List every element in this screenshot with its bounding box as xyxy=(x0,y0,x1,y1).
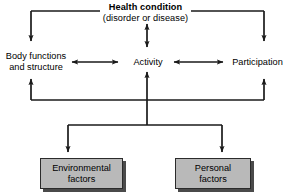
health-condition-subtitle: (disorder or disease) xyxy=(0,13,291,24)
participation-label: Participation xyxy=(224,57,291,68)
body-functions-label: Body functions and structure xyxy=(0,51,72,72)
health-condition-title: Health condition xyxy=(0,2,291,13)
body-functions-line-1: Body functions xyxy=(6,51,66,61)
body-functions-line-2: and structure xyxy=(9,62,63,72)
icf-model-diagram: Health condition (disorder or disease) B… xyxy=(0,0,291,193)
environmental-factors-line-2: factors xyxy=(68,174,96,184)
environmental-factors-box: Environmental factors xyxy=(40,158,123,189)
personal-factors-box: Personal factors xyxy=(175,158,251,189)
activity-label: Activity xyxy=(119,57,177,68)
environmental-factors-line-1: Environmental xyxy=(52,163,111,173)
health-condition-label: Health condition (disorder or disease) xyxy=(0,2,291,23)
personal-factors-line-2: factors xyxy=(199,174,227,184)
personal-factors-line-1: Personal xyxy=(195,163,231,173)
personal-factors-label: Personal factors xyxy=(195,163,231,185)
environmental-factors-label: Environmental factors xyxy=(52,163,111,185)
